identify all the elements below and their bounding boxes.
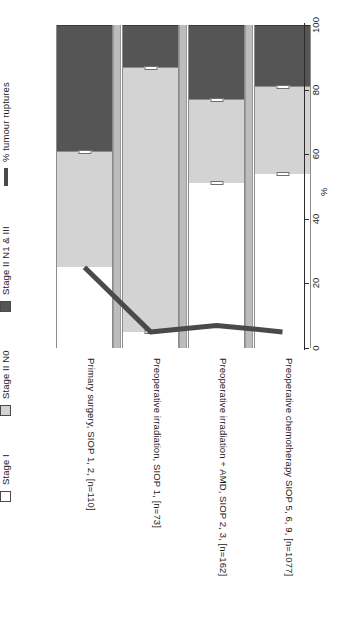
error-cap-icon (210, 181, 223, 185)
bar-segment-stage-i (57, 267, 112, 348)
bar-gap-strip (113, 25, 121, 348)
plot-area (55, 25, 305, 348)
chart-legend: Stage I Stage II N0 Stage II N1 & III % … (0, 0, 46, 360)
stacked-bar-primary-surgery (56, 25, 113, 348)
chart-figure: Stage I Stage II N0 Stage II N1 & III % … (0, 0, 341, 630)
y-axis-tick-label: 60 (310, 149, 321, 160)
stacked-bar-preop-chemotherapy (254, 25, 311, 348)
bar-segment-stage-ii-n0 (57, 151, 112, 267)
bar-segment-stage-ii-n1-iii (189, 25, 244, 99)
bar-segment-stage-ii-n1-iii (255, 25, 310, 86)
bar-gap-strip (179, 25, 187, 348)
error-cap-icon (276, 172, 289, 176)
y-axis-tick-label: 0 (310, 345, 321, 350)
bar-segment-stage-ii-n1-iii (123, 25, 178, 67)
y-axis-tick (304, 348, 309, 349)
legend-label-stage-ii-n0: Stage II N0 (0, 350, 11, 399)
error-cap-icon (78, 150, 91, 154)
bar-segment-stage-i (123, 332, 178, 348)
line-segment-icon (4, 168, 8, 186)
legend-label-stage-i: Stage I (0, 454, 11, 485)
category-label-preop-irradiation-amd: Preoperative irradiation + AMD, SIOP 2, … (218, 358, 229, 576)
dark-gray-square-icon (0, 301, 11, 312)
bar-segment-stage-ii-n0 (189, 99, 244, 183)
y-axis-tick-label: 20 (310, 278, 321, 289)
y-axis-tick (304, 154, 309, 155)
legend-label-tumour-ruptures: % tumour ruptures (0, 82, 11, 162)
white-square-icon (0, 491, 11, 502)
error-cap-icon (210, 98, 223, 102)
category-label-preop-irradiation: Preoperative irradiation, SIOP 1, [n=73] (152, 358, 163, 528)
bar-gap-strip (245, 25, 253, 348)
bar-segment-stage-ii-n1-iii (57, 25, 112, 151)
stacked-bar-preop-irradiation-amd (188, 25, 245, 348)
bar-segment-stage-i (255, 174, 310, 348)
error-cap-icon (144, 330, 157, 334)
bar-segment-stage-i (189, 183, 244, 348)
error-cap-icon (276, 85, 289, 89)
y-axis-tick (304, 25, 309, 26)
stacked-bar-preop-irradiation (122, 25, 179, 348)
light-gray-square-icon (0, 405, 11, 416)
y-axis-title: % (318, 188, 329, 196)
y-axis-tick (304, 90, 309, 91)
y-axis-tick (304, 283, 309, 284)
category-label-primary-surgery: Primary surgery, SIOP 1, 2, [n=110] (86, 358, 97, 511)
legend-label-stage-ii-n1-iii: Stage II N1 & III (0, 226, 11, 295)
y-axis-tick-label: 40 (310, 214, 321, 225)
y-axis-line (304, 23, 305, 350)
y-axis-tick (304, 219, 309, 220)
bar-segment-stage-ii-n0 (123, 67, 178, 332)
y-axis-tick-label: 100 (310, 17, 321, 33)
bar-segment-stage-ii-n0 (255, 86, 310, 173)
y-axis-tick-label: 80 (310, 85, 321, 96)
error-cap-icon (144, 66, 157, 70)
category-label-preop-chemotherapy: Preoperative chemotherapy SIOP 5, 6, 9, … (284, 358, 295, 576)
